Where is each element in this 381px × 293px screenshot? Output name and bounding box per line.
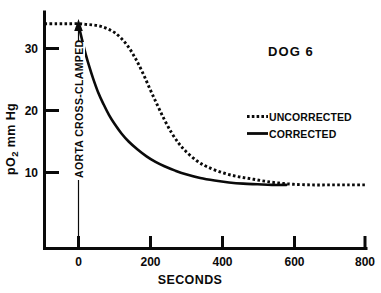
plot-title: DOG 6 — [268, 44, 314, 59]
y-axis-ticklabels: 30 20 10 — [25, 42, 39, 180]
y-axis-title-group: pO2 mm Hg — [4, 103, 20, 175]
y-ticklabel-20: 20 — [25, 104, 39, 118]
x-axis-ticks — [79, 236, 366, 248]
x-axis-title: SECONDS — [158, 273, 223, 287]
chart-figure: 30 20 10 pO2 mm Hg 0 200 400 600 800 SEC… — [0, 0, 381, 293]
y-ticklabel-30: 30 — [25, 42, 39, 56]
series-line-uncorrected — [44, 24, 365, 185]
series-group — [44, 24, 365, 185]
legend-label-corrected: CORRECTED — [269, 128, 337, 140]
x-ticklabel-400: 400 — [212, 255, 232, 269]
x-ticklabel-0: 0 — [75, 255, 82, 269]
annotation-label: AORTA CROSS-CLAMPED — [73, 39, 85, 178]
y-ticklabel-10: 10 — [25, 166, 39, 180]
legend-item-uncorrected: UNCORRECTED — [247, 111, 352, 123]
legend-item-corrected: CORRECTED — [247, 128, 337, 140]
x-ticklabel-800: 800 — [355, 255, 375, 269]
legend-label-uncorrected: UNCORRECTED — [269, 111, 352, 123]
x-axis-ticklabels: 0 200 400 600 800 — [75, 255, 375, 269]
chart-svg: 30 20 10 pO2 mm Hg 0 200 400 600 800 SEC… — [0, 0, 381, 293]
x-ticklabel-600: 600 — [284, 255, 304, 269]
y-axis-ticks — [44, 49, 59, 173]
x-ticklabel-200: 200 — [140, 255, 160, 269]
annotation-aorta-cross-clamped: AORTA CROSS-CLAMPED — [72, 19, 85, 245]
legend: UNCORRECTED CORRECTED — [247, 111, 352, 140]
series-line-corrected — [79, 25, 287, 185]
y-axis-title: pO2 mm Hg — [4, 103, 20, 175]
